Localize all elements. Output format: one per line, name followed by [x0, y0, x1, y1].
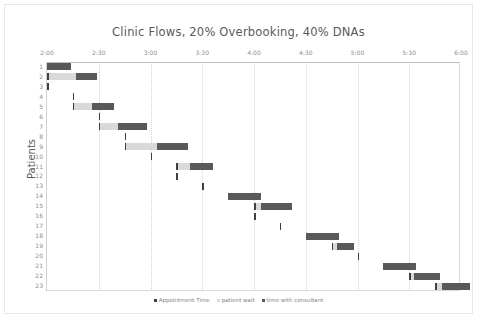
legend-item-patient-wait: patient wait [217, 297, 255, 303]
plot-area: 2:002:303:003:304:004:305:005:306:00 123… [46, 62, 460, 291]
bar-patient-wait [99, 123, 118, 130]
y-tick-label: 7 [39, 123, 43, 130]
gantt-row: 15 [47, 201, 459, 211]
gantt-row: 20 [47, 251, 459, 261]
bar-appointment-time [99, 113, 101, 120]
bar-appointment-time [435, 283, 437, 290]
y-tick-label: 11 [35, 163, 43, 170]
y-tick-label: 9 [39, 143, 43, 150]
gantt-row: 3 [47, 82, 459, 92]
y-tick-label: 5 [39, 103, 43, 110]
bar-appointment-time [332, 243, 334, 250]
chart-frame: Clinic Flows, 20% Overbooking, 40% DNAs … [4, 4, 473, 314]
gantt-row: 4 [47, 92, 459, 102]
gantt-row: 21 [47, 261, 459, 271]
legend-item-time-with-consultant: time with consultant [262, 297, 324, 303]
bar-time-with-consultant [383, 263, 416, 270]
gantt-row: 5 [47, 102, 459, 112]
bar-appointment-time [254, 203, 256, 210]
bar-time-with-consultant [442, 283, 470, 290]
gantt-row: 11 [47, 162, 459, 172]
y-tick-label: 17 [35, 222, 43, 229]
legend-label-patient-wait: patient wait [222, 297, 255, 303]
y-tick-label: 16 [35, 212, 43, 219]
bar-appointment-time [99, 123, 101, 130]
gantt-row: 9 [47, 142, 459, 152]
gantt-row: 6 [47, 112, 459, 122]
gantt-row: 7 [47, 122, 459, 132]
x-tick-label: 2:30 [92, 49, 105, 56]
chart-title: Clinic Flows, 20% Overbooking, 40% DNAs [5, 25, 472, 39]
gantt-row: 18 [47, 231, 459, 241]
bar-appointment-time [254, 213, 256, 220]
bar-time-with-consultant [92, 103, 114, 110]
bar-time-with-consultant [190, 163, 212, 170]
bar-appointment-time [73, 93, 75, 100]
x-tick-label: 5:00 [351, 49, 364, 56]
bar-patient-wait [176, 163, 190, 170]
bar-time-with-consultant [261, 203, 292, 210]
x-tick-label: 5:30 [403, 49, 416, 56]
legend-swatch-time-with-consultant [262, 299, 265, 302]
bar-appointment-time [176, 173, 178, 180]
gantt-row: 10 [47, 152, 459, 162]
bar-time-with-consultant [337, 243, 354, 250]
legend-swatch-patient-wait [217, 299, 220, 302]
y-tick-label: 19 [35, 242, 43, 249]
x-tick-label: 4:30 [299, 49, 312, 56]
x-tick-label: 4:00 [247, 49, 260, 56]
bar-appointment-time [202, 183, 204, 190]
y-tick-label: 4 [39, 93, 43, 100]
y-tick-label: 14 [35, 192, 43, 199]
bar-time-with-consultant [306, 233, 339, 240]
legend-item-appointment-time: Appointment Time [154, 297, 210, 303]
bar-appointment-time [151, 153, 153, 160]
gantt-row: 8 [47, 132, 459, 142]
bar-appointment-time [176, 163, 178, 170]
x-tick-label: 3:30 [196, 49, 209, 56]
bar-appointment-time [125, 133, 127, 140]
gantt-row: 2 [47, 72, 459, 82]
gantt-row: 1 [47, 62, 459, 72]
bar-appointment-time [47, 83, 49, 90]
y-tick-label: 21 [35, 262, 43, 269]
x-tick-label: 6:00 [454, 49, 467, 56]
bar-patient-wait [73, 103, 92, 110]
y-tick-label: 8 [39, 133, 43, 140]
bar-time-with-consultant [47, 63, 71, 70]
legend-swatch-appointment-time [154, 299, 157, 302]
gantt-row: 13 [47, 181, 459, 191]
bar-patient-wait [47, 73, 76, 80]
bar-appointment-time [280, 223, 282, 230]
bar-time-with-consultant [157, 143, 188, 150]
bar-time-with-consultant [76, 73, 97, 80]
y-tick-label: 1 [39, 63, 43, 70]
y-tick-label: 13 [35, 182, 43, 189]
bar-time-with-consultant [118, 123, 147, 130]
gantt-row: 23 [47, 281, 459, 291]
gantt-row: 19 [47, 241, 459, 251]
bar-time-with-consultant [414, 273, 440, 280]
legend-label-time-with-consultant: time with consultant [267, 297, 324, 303]
y-tick-label: 20 [35, 252, 43, 259]
y-tick-label: 10 [35, 153, 43, 160]
bar-appointment-time [409, 273, 411, 280]
gantt-row: 22 [47, 271, 459, 281]
y-tick-label: 6 [39, 113, 43, 120]
x-tick-label: 3:00 [144, 49, 157, 56]
gantt-row: 12 [47, 172, 459, 182]
gantt-row: 16 [47, 211, 459, 221]
gantt-row: 14 [47, 191, 459, 201]
y-tick-label: 12 [35, 172, 43, 179]
bar-patient-wait [125, 143, 158, 150]
y-tick-label: 22 [35, 272, 43, 279]
y-tick-label: 15 [35, 202, 43, 209]
bar-appointment-time [47, 73, 49, 80]
bar-appointment-time [125, 143, 127, 150]
legend-label-appointment-time: Appointment Time [159, 297, 210, 303]
y-tick-label: 23 [35, 282, 43, 289]
bar-time-with-consultant [228, 193, 261, 200]
gantt-row: 17 [47, 221, 459, 231]
bar-appointment-time [358, 253, 360, 260]
y-tick-label: 2 [39, 73, 43, 80]
